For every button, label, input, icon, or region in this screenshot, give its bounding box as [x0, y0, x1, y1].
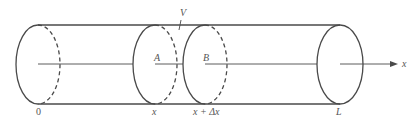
position-x-plus-dx-label: x + Δx	[192, 106, 220, 117]
section-a-label: A	[153, 52, 161, 63]
axis-label: x	[401, 58, 407, 69]
origin-label: 0	[36, 106, 41, 117]
length-label: L	[335, 106, 342, 117]
section-a-front-arc	[133, 25, 155, 104]
volume-label: V	[180, 7, 188, 18]
left-end-front-arc	[16, 25, 38, 104]
position-x-label: x	[151, 106, 157, 117]
section-b-back-arc	[205, 25, 227, 104]
section-b-label: B	[203, 52, 209, 63]
section-b-front-arc	[183, 25, 205, 104]
cylinder-diagram: V A B 0 x x + Δx L x	[0, 0, 420, 120]
axis-arrowhead-icon	[390, 61, 398, 67]
section-a-back-arc	[155, 25, 177, 104]
left-end-back-arc	[38, 25, 60, 104]
right-end-ellipse	[317, 25, 363, 104]
